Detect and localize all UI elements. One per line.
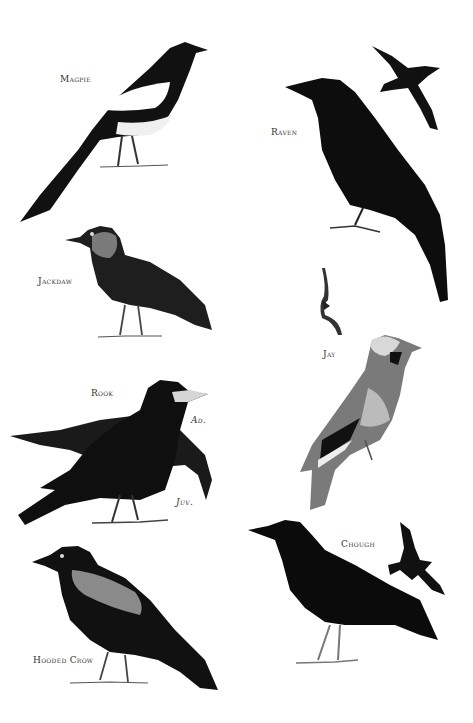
jay-illustration xyxy=(300,335,422,510)
magpie-illustration xyxy=(20,42,208,222)
raven-illustration xyxy=(285,46,448,302)
jay-label: Jay xyxy=(323,349,336,359)
rook-label: Rook xyxy=(91,388,113,398)
chough-label: Chough xyxy=(341,539,375,549)
hooded-crow-label: Hooded Crow xyxy=(33,655,93,665)
rook-adult-label: Ad. xyxy=(191,415,206,425)
bird-plate: Magpie Raven Jackdaw Jay Rook Ad. Juv. C… xyxy=(0,0,473,723)
hooded-crow-illustration xyxy=(32,546,218,690)
feather-sprig-illustration xyxy=(320,268,342,335)
magpie-label: Magpie xyxy=(60,74,91,84)
raven-label: Raven xyxy=(271,127,297,137)
bird-illustrations xyxy=(0,0,473,723)
jackdaw-illustration xyxy=(65,226,212,337)
jackdaw-label: Jackdaw xyxy=(38,276,72,286)
rook-juvenile-label: Juv. xyxy=(176,497,193,507)
